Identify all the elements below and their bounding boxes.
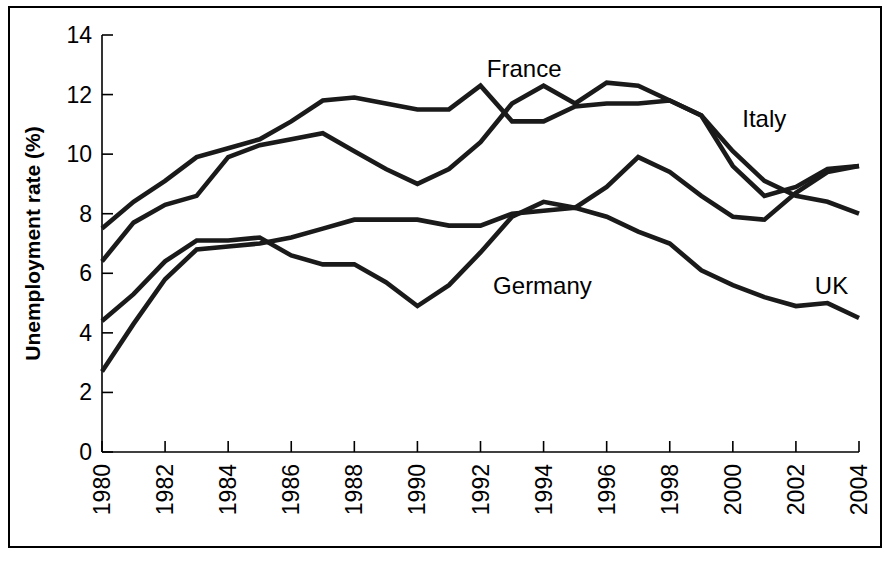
series-line-germany [102,157,859,321]
scan-edge-artifact [0,568,893,582]
x-tick-label: 1994 [531,464,557,515]
line-chart: 02468101214 1980198219841986198819901992… [10,8,880,546]
x-tick-label: 1982 [152,464,178,515]
y-tick-label: 2 [79,379,92,405]
series-inline-labels: FranceItalyGermanyUK [487,55,848,299]
x-tick-label: 1998 [657,464,683,515]
y-axis-ticks [102,35,113,452]
y-tick-label: 6 [79,260,92,286]
series-line-uk [102,208,859,372]
series-label-italy: Italy [742,105,786,132]
y-tick-label: 0 [79,439,92,465]
x-tick-label: 1984 [215,464,241,515]
x-axis-ticks [102,441,859,452]
y-tick-label: 8 [79,201,92,227]
x-tick-label: 1996 [594,464,620,515]
x-tick-label: 2004 [846,464,872,515]
y-tick-label: 10 [66,141,92,167]
x-tick-label: 1980 [89,464,115,515]
y-axis-tick-labels: 02468101214 [66,22,92,465]
figure-frame: 02468101214 1980198219841986198819901992… [8,6,882,548]
y-axis-title: Unemployment rate (%) [21,126,44,361]
x-tick-label: 1988 [341,464,367,515]
x-tick-label: 2000 [720,464,746,515]
x-tick-label: 1990 [404,464,430,515]
x-tick-label: 1986 [278,464,304,515]
y-tick-label: 12 [66,82,92,108]
x-tick-label: 1992 [468,464,494,515]
screenshot-root: 02468101214 1980198219841986198819901992… [0,0,893,582]
series-label-germany: Germany [493,272,592,299]
x-tick-label: 2002 [783,464,809,515]
x-axis-tick-labels: 1980198219841986198819901992199419961998… [89,464,872,515]
y-tick-label: 14 [66,22,92,48]
series-label-france: France [487,55,562,82]
series-label-uk: UK [815,272,848,299]
y-tick-label: 4 [79,320,92,346]
